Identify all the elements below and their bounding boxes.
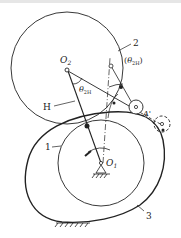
leader-gear-2 [118, 44, 131, 51]
planetary-gear-diagram: O2 2 (θ2H) θ2H H A' 1 O1 3 [0, 0, 181, 238]
contact-point-2 [119, 85, 123, 89]
leader-gear-3 [137, 205, 144, 211]
label-o2: O2 [60, 55, 71, 66]
label-theta-paren: (θ2H) [124, 56, 143, 66]
contact-point-4 [113, 102, 116, 105]
label-o1: O1 [106, 158, 117, 169]
planet-a-center [134, 105, 137, 108]
o2-pivot [65, 68, 69, 72]
label-point-a: A' [142, 109, 151, 118]
label-gear-2: 2 [133, 38, 139, 48]
label-arm-h: H [43, 102, 51, 112]
ground-hatch-bottom [55, 223, 90, 227]
contact-point-3 [162, 129, 165, 132]
label-gear-3: 3 [146, 211, 152, 221]
leader-arm-h [54, 101, 75, 106]
contact-point-1 [85, 124, 90, 129]
label-gear-1: 1 [45, 142, 51, 152]
theta-arc-o2 [73, 78, 82, 84]
arc-crossing [108, 94, 118, 118]
planet-a-prime-center [160, 122, 163, 125]
leader-gear-1 [52, 146, 61, 147]
label-theta-2h: θ2H [79, 85, 92, 95]
arm-h [68, 71, 101, 163]
pivot-small [109, 64, 113, 68]
cropped-text-line [0, 0, 181, 3]
